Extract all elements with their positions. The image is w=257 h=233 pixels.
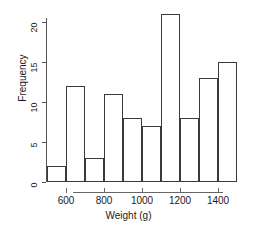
x-axis-tick-label: 1000: [122, 196, 162, 206]
x-axis-tick-label: 800: [84, 196, 124, 206]
x-axis-tick: [104, 188, 105, 193]
histogram-figure: Frequency 05101520 600800100012001400 We…: [0, 0, 257, 233]
y-axis-tick-label: 20: [30, 23, 39, 57]
histogram-bar: [161, 14, 180, 182]
histogram-bar: [47, 166, 66, 182]
histogram-bars: [47, 14, 237, 182]
x-axis-tick-label: 1400: [198, 196, 238, 206]
x-axis-tick: [218, 188, 219, 193]
x-axis-tick: [66, 188, 67, 193]
x-axis-tick-label: 600: [46, 196, 86, 206]
y-axis-tick: [42, 22, 46, 23]
y-axis-tick: [42, 182, 46, 183]
y-axis-tick: [42, 62, 46, 63]
histogram-bar: [66, 86, 85, 182]
y-axis-tick: [42, 142, 46, 143]
histogram-bar: [104, 94, 123, 182]
histogram-bar: [218, 62, 237, 182]
histogram-bar: [123, 118, 142, 182]
plot-area: [47, 14, 237, 182]
x-axis-tick: [142, 188, 143, 193]
histogram-bar: [142, 126, 161, 182]
y-axis-tick-label: 5: [30, 143, 39, 177]
y-axis-title: Frequency: [18, 43, 28, 113]
y-axis-tick-label: 15: [30, 63, 39, 97]
x-axis-tick-label: 1200: [160, 196, 200, 206]
y-axis-tick: [42, 102, 46, 103]
x-axis-line: [73, 192, 223, 193]
histogram-bar: [180, 118, 199, 182]
histogram-bar: [199, 78, 218, 182]
x-axis-title: Weight (g): [0, 210, 257, 221]
y-axis-tick-label: 10: [30, 103, 39, 137]
histogram-bar: [85, 158, 104, 182]
x-axis-tick: [180, 188, 181, 193]
